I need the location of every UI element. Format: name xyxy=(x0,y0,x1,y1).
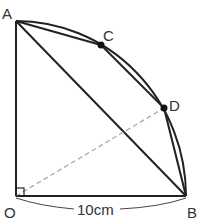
point-D xyxy=(161,105,168,112)
measurement-label: 10cm xyxy=(77,201,114,218)
segment-OD-dashed xyxy=(16,108,164,196)
label-O: O xyxy=(4,204,16,221)
segment-CD xyxy=(101,45,164,108)
measurement-brace xyxy=(16,198,74,209)
label-D: D xyxy=(169,97,180,114)
measurement-brace-right xyxy=(120,198,186,209)
label-A: A xyxy=(2,5,12,22)
label-B: B xyxy=(187,204,197,221)
segment-DB xyxy=(164,108,186,196)
label-C: C xyxy=(103,27,114,44)
geometry-diagram: A B O C D 10cm xyxy=(0,0,208,224)
